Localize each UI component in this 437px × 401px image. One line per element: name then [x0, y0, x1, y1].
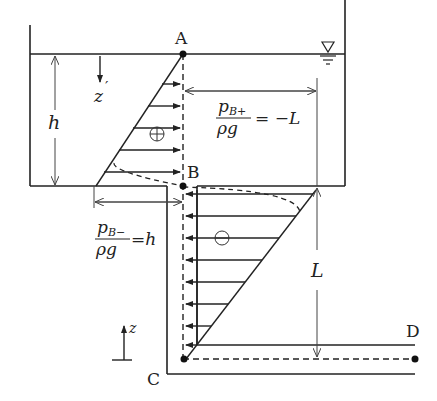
label-h: h [48, 111, 60, 133]
label-d: D [406, 321, 420, 341]
label-a: A [174, 28, 188, 48]
water-level-icon [320, 42, 336, 64]
svg-text:=h: =h [131, 229, 156, 249]
point-d-marker [412, 356, 419, 363]
svg-text:p: p [97, 217, 108, 237]
point-c-marker [181, 356, 188, 363]
label-z-axis: z [128, 320, 137, 336]
actual-pressure-curve-upper [114, 163, 183, 186]
svg-text:= −L: = −L [255, 108, 300, 128]
equation-pb-minus: p B− ρg =h [95, 217, 156, 259]
minus-sign-icon [215, 231, 229, 245]
label-l: L [310, 259, 324, 281]
positive-pressure-distribution [96, 54, 183, 186]
plus-sign-icon [150, 127, 164, 141]
svg-text:p: p [218, 96, 229, 116]
svg-text:B−: B− [107, 226, 125, 239]
svg-text:ρg: ρg [216, 118, 238, 138]
tank [30, 0, 345, 186]
label-c: C [147, 369, 160, 389]
dimension-pb-plus [185, 78, 317, 186]
label-z-prime-mark: ′ [105, 78, 109, 96]
negative-pressure-distribution [186, 190, 316, 359]
actual-pressure-curve-lower [183, 187, 300, 212]
label-z-prime: z [93, 86, 104, 106]
svg-text:ρg: ρg [95, 239, 117, 259]
equation-pb-plus: p B+ ρg = −L [216, 96, 300, 138]
svg-text:B+: B+ [228, 105, 246, 118]
pressure-distribution-diagram: A B C D h z ′ z L p B+ ρg = −L p B− ρg =… [0, 0, 437, 401]
point-b-marker [180, 183, 187, 190]
label-b: B [187, 162, 200, 182]
point-a-marker [180, 51, 187, 58]
dimension-pb-minus [94, 186, 182, 208]
pipe [167, 186, 415, 374]
